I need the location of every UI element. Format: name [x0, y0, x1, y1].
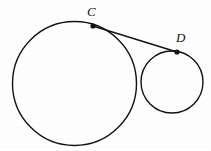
point-label-c: C — [87, 5, 96, 18]
figure-canvas — [0, 0, 211, 151]
segment-CD — [93, 26, 177, 52]
large-circle — [13, 22, 137, 146]
point-label-d: D — [176, 31, 185, 44]
point-D-dot — [174, 49, 179, 54]
small-circle — [141, 51, 203, 113]
geometry-figure: C D — [0, 0, 211, 151]
point-C-dot — [90, 23, 95, 28]
